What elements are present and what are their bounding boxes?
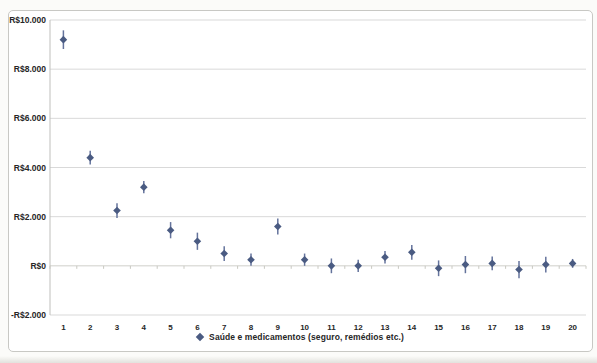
- x-axis-label: 2: [88, 323, 93, 332]
- x-axis-label: 3: [115, 323, 120, 332]
- data-point: [328, 262, 336, 270]
- x-axis-label: 1: [61, 323, 66, 332]
- data-point: [60, 36, 68, 44]
- x-axis-label: 12: [354, 323, 363, 332]
- x-axis-label: 5: [168, 323, 173, 332]
- y-axis-label: R$0: [30, 261, 46, 271]
- data-point: [408, 249, 416, 257]
- data-point: [194, 237, 202, 245]
- x-axis-label: 19: [541, 323, 550, 332]
- data-point: [515, 266, 523, 274]
- data-point: [381, 253, 389, 261]
- y-axis-label: R$8.000: [14, 64, 46, 74]
- y-axis-label: R$6.000: [14, 113, 46, 123]
- x-axis-label: 14: [407, 323, 416, 332]
- data-point: [462, 261, 470, 269]
- series-legend-label: Saúde e medicamentos (seguro, remédios e…: [209, 332, 404, 342]
- x-axis-label: 10: [300, 323, 309, 332]
- data-point: [86, 154, 94, 162]
- data-point: [274, 223, 282, 231]
- x-axis-label: 11: [327, 323, 336, 332]
- x-axis-label: 4: [142, 323, 147, 332]
- x-axis-label: 16: [461, 323, 470, 332]
- y-axis-label: R$10.000: [9, 15, 46, 25]
- y-axis-label: R$4.000: [14, 163, 46, 173]
- x-axis-label: 8: [249, 323, 254, 332]
- data-point: [113, 207, 121, 215]
- data-point: [542, 261, 550, 269]
- y-axis-label: -R$2.000: [11, 310, 46, 320]
- data-point: [167, 226, 175, 234]
- data-point: [247, 256, 255, 264]
- data-point: [140, 183, 148, 191]
- data-point: [354, 262, 362, 270]
- y-axis-label: R$2.000: [14, 212, 46, 222]
- x-axis-label: 6: [195, 323, 200, 332]
- chart-page: R$10.000R$8.000R$6.000R$4.000R$2.000R$0-…: [0, 0, 597, 363]
- x-axis-label: 20: [568, 323, 577, 332]
- x-axis-label: 18: [515, 323, 524, 332]
- x-axis-label: 13: [381, 323, 390, 332]
- data-point: [301, 256, 309, 264]
- series-diamond-icon: [196, 333, 204, 341]
- chart-legend: Saúde e medicamentos (seguro, remédios e…: [8, 332, 593, 342]
- data-point: [220, 250, 228, 258]
- x-axis-label: 15: [434, 323, 443, 332]
- x-axis-label: 17: [488, 323, 497, 332]
- x-axis-label: 9: [276, 323, 281, 332]
- scatter-plot: R$10.000R$8.000R$6.000R$4.000R$2.000R$0-…: [0, 0, 597, 363]
- x-axis-label: 7: [222, 323, 227, 332]
- page-bottom-shadow: [0, 356, 597, 363]
